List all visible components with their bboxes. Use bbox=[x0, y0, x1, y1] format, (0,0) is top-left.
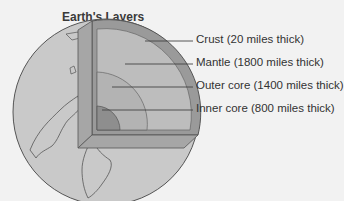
crust-left-face bbox=[78, 21, 92, 148]
label-crust: Crust (20 miles thick) bbox=[196, 33, 304, 45]
label-mantle: Mantle (1800 miles thick) bbox=[196, 56, 324, 68]
label-outer-core: Outer core (1400 miles thick) bbox=[196, 79, 344, 91]
crust-bottom-face bbox=[78, 135, 198, 148]
label-inner-core: Inner core (800 miles thick) bbox=[196, 102, 335, 114]
